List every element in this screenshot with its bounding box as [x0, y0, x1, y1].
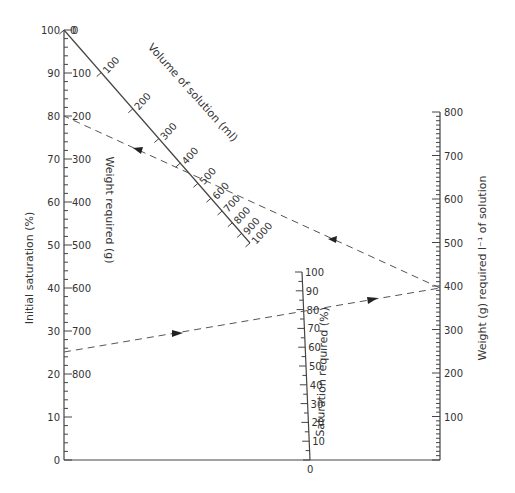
tick	[218, 211, 223, 215]
tick	[154, 139, 159, 143]
tick	[193, 183, 198, 187]
saturation-required-tick-label: 10	[312, 436, 325, 447]
saturation-required-tick-label: 100	[305, 267, 324, 278]
tick	[128, 109, 133, 113]
initial-saturation-tick-label: 90	[47, 68, 60, 79]
initial-saturation-tick-label: 0	[54, 455, 60, 466]
weight-per-litre-tick-label: 800	[444, 107, 463, 118]
tick	[176, 163, 181, 167]
tick	[206, 198, 211, 202]
weight-required-tick-label: 600	[72, 283, 91, 294]
initial-saturation-label: Initial saturation (%)	[23, 212, 36, 325]
weight-per-litre-tick-label: 300	[444, 325, 463, 336]
volume-tick-label: 400	[180, 145, 201, 167]
tick	[245, 243, 250, 247]
tick	[59, 30, 64, 34]
arrow-icon	[367, 297, 378, 304]
initial-saturation-tick-label: 50	[47, 240, 60, 251]
initial-saturation-tick-label: 70	[47, 154, 60, 165]
tick	[237, 233, 242, 237]
tick	[97, 73, 102, 77]
weight-required-tick-label: 700	[72, 326, 91, 337]
volume-tick-label: 500	[197, 165, 218, 187]
weight-required-tick-label: 400	[72, 197, 91, 208]
tick	[228, 223, 233, 227]
volume-tick-label: 300	[158, 120, 179, 142]
weight-required-tick-label: 300	[72, 154, 91, 165]
initial-saturation-tick-label: 80	[47, 111, 60, 122]
arrow-icon	[172, 330, 183, 337]
weight-per-litre-tick-label: 500	[444, 238, 463, 249]
saturation-required-tick-label: 90	[306, 286, 319, 297]
initial-saturation-tick-label: 10	[47, 412, 60, 423]
example-line-1	[64, 288, 440, 352]
volume-zero-label: 0	[70, 25, 76, 36]
weight-per-litre-tick-label: 700	[444, 151, 463, 162]
weight-required-tick-label: 800	[72, 369, 91, 380]
weight-per-litre-tick-label: 600	[444, 194, 463, 205]
initial-saturation-tick-label: 60	[47, 197, 60, 208]
weight-required-label: Weight required (g)	[103, 157, 116, 264]
initial-saturation-tick-label: 40	[47, 283, 60, 294]
nomogram: 1009080706050403020100010020030040050060…	[0, 0, 515, 493]
weight-required-tick-label: 500	[72, 240, 91, 251]
example-line-2	[64, 116, 440, 288]
arrow-icon	[133, 147, 143, 154]
weight-per-litre-label: Weight (g) required l⁻¹ of solution	[476, 176, 489, 361]
initial-saturation-tick-label: 100	[41, 25, 60, 36]
volume-label: Volume of solution (ml)	[145, 41, 240, 145]
saturation-required-tick-label: 0	[307, 464, 313, 475]
weight-per-litre-tick-label: 100	[444, 412, 463, 423]
volume-tick-label: 100	[101, 54, 122, 76]
weight-required-tick-label: 200	[72, 111, 91, 122]
initial-saturation-tick-label: 30	[47, 326, 60, 337]
weight-per-litre-tick-label: 400	[444, 281, 463, 292]
weight-per-litre-tick-label: 200	[444, 368, 463, 379]
weight-required-tick-label: 100	[72, 68, 91, 79]
initial-saturation-tick-label: 20	[47, 369, 60, 380]
volume-tick-label: 200	[132, 91, 153, 113]
